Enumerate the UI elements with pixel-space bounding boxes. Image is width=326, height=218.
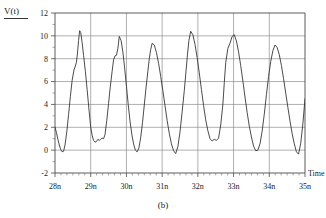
y-tick-label: -2 [41, 169, 48, 178]
x-tick-label: 30n [120, 182, 132, 191]
x-tick-label: 29n [85, 182, 97, 191]
y-tick-label: 2 [44, 123, 48, 132]
y-tick-label: 8 [44, 55, 48, 64]
x-axis-label-group: Time [308, 169, 325, 178]
y-tick-label: 6 [44, 77, 48, 86]
plot-border [55, 13, 305, 173]
x-tick-label: 34n [263, 182, 275, 191]
figure-caption: (b) [0, 200, 326, 210]
x-tick-label: 32n [192, 182, 204, 191]
waveform-plot: -202468101228n29n30n31n32n33n34n35n Time [0, 0, 326, 200]
x-tick-label: 31n [156, 182, 168, 191]
axis-ticks [51, 13, 305, 177]
signal-trace [55, 31, 305, 154]
x-tick-label: 35n [299, 182, 311, 191]
grid-lines [55, 13, 305, 173]
figure-container: V(t) -202468101228n29n30n31n32n33n34n35n… [0, 0, 326, 218]
y-tick-label: 10 [40, 32, 48, 41]
y-tick-label: 12 [40, 9, 48, 18]
x-tick-label: 33n [228, 182, 240, 191]
plot-frame [55, 13, 305, 173]
signal-trace-path [55, 31, 305, 154]
x-axis-label: Time [308, 169, 325, 178]
x-tick-label: 28n [49, 182, 61, 191]
y-tick-label: 0 [44, 146, 48, 155]
y-tick-label: 4 [44, 100, 48, 109]
